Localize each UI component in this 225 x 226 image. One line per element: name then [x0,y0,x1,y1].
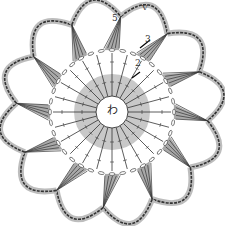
chain-stitch [49,109,52,115]
round-label-5: 5 [112,14,118,23]
crochet-chart: わ 5 3 2 V [0,0,225,226]
petal-arc-shadow [190,121,219,168]
chain-stitch [109,173,115,176]
petal-arc [21,152,57,191]
chain-stitch [109,49,115,52]
start-mark: V [142,4,148,12]
petal-arc-shadow [103,199,152,224]
petal-arc [33,21,72,57]
stitch-line [34,57,57,81]
petal-arc-shadow [5,57,34,104]
stitch-line [168,144,191,168]
round-label-3: 3 [145,35,151,44]
round-label-2: 2 [135,59,141,68]
petal-arc-shadow [199,72,224,121]
stitch-line [57,168,81,191]
chain-stitch [173,109,176,115]
petal-arc [152,167,191,203]
petal-arc [167,33,203,72]
petal-arc-shadow [57,190,104,219]
magic-ring-label: わ [107,105,118,116]
petal-arc-shadow [0,103,25,152]
